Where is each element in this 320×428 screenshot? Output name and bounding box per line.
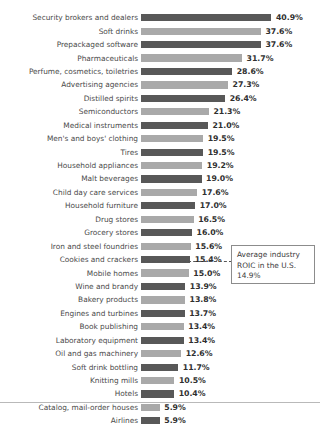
category-label: Knitting mills xyxy=(0,376,138,385)
bar-value-label: 17.0% xyxy=(200,201,227,210)
bar-value-label: 19.0% xyxy=(206,174,233,183)
bar-zone: 40.9% xyxy=(138,11,320,24)
bar-value-label: 11.7% xyxy=(183,363,210,372)
bar xyxy=(141,337,184,344)
category-label: Soft drink bottling xyxy=(0,363,138,372)
bar xyxy=(141,122,208,129)
bar-value-label: 13.7% xyxy=(189,309,216,318)
bar-value-label: 5.9% xyxy=(164,416,185,425)
bar-zone: 16.0% xyxy=(138,226,320,239)
category-label: Drug stores xyxy=(0,215,138,224)
bottom-divider xyxy=(0,402,320,403)
chart-row: Drug stores16.5% xyxy=(0,213,320,226)
bar-zone: 19.0% xyxy=(138,172,320,185)
category-label: Oil and gas machinery xyxy=(0,349,138,358)
bar-zone: 19.2% xyxy=(138,159,320,172)
category-label: Soft drinks xyxy=(0,27,138,36)
bar-zone: 10.5% xyxy=(138,374,320,387)
bar xyxy=(141,202,195,209)
bar-zone: 13.4% xyxy=(138,320,320,333)
chart-row: Malt beverages19.0% xyxy=(0,172,320,185)
bar-value-label: 13.8% xyxy=(190,295,217,304)
chart-row: Pharmaceuticals31.7% xyxy=(0,51,320,64)
bar-value-label: 16.0% xyxy=(197,228,224,237)
bar-value-label: 21.3% xyxy=(213,107,240,116)
chart-row: Airlines5.9% xyxy=(0,414,320,427)
bar-value-label: 27.3% xyxy=(233,80,260,89)
chart-rows: Security brokers and dealers40.9%Soft dr… xyxy=(0,11,320,428)
bar xyxy=(141,310,185,317)
chart-row: Child day care services17.6% xyxy=(0,186,320,199)
bar-value-label: 10.4% xyxy=(179,389,206,398)
category-label: Mobile homes xyxy=(0,269,138,278)
bar-zone: 26.4% xyxy=(138,92,320,105)
bar xyxy=(141,81,228,88)
category-label: Tires xyxy=(0,148,138,157)
chart-row: Oil and gas machinery12.6% xyxy=(0,347,320,360)
bar-zone: 21.3% xyxy=(138,105,320,118)
bar-zone: 27.3% xyxy=(138,78,320,91)
bar xyxy=(141,175,202,182)
bar-value-label: 5.9% xyxy=(164,403,185,412)
bar xyxy=(141,68,232,75)
chart-row: Semiconductors21.3% xyxy=(0,105,320,118)
bar-value-label: 37.6% xyxy=(265,27,292,36)
chart-row: Perfume, cosmetics, toiletries28.6% xyxy=(0,65,320,78)
category-label: Catalog, mail-order houses xyxy=(0,403,138,412)
bar-value-label: 40.9% xyxy=(276,13,303,22)
bar xyxy=(141,417,160,424)
bar-value-label: 16.5% xyxy=(198,215,225,224)
chart-row: Grocery stores16.0% xyxy=(0,226,320,239)
category-label: Semiconductors xyxy=(0,107,138,116)
bar-value-label: 13.4% xyxy=(188,336,215,345)
bar xyxy=(141,269,189,276)
bar xyxy=(141,28,261,35)
category-label: Book publishing xyxy=(0,322,138,331)
bar xyxy=(141,323,184,330)
chart-row: Household furniture17.0% xyxy=(0,199,320,212)
category-label: Security brokers and dealers xyxy=(0,13,138,22)
bar-value-label: 13.9% xyxy=(190,282,217,291)
bar-value-label: 26.4% xyxy=(230,94,257,103)
chart-row: Laboratory equipment13.4% xyxy=(0,334,320,347)
chart-row: Men's and boys' clothing19.5% xyxy=(0,132,320,145)
bar-value-label: 13.4% xyxy=(188,322,215,331)
bar-zone: 37.6% xyxy=(138,24,320,37)
category-label: Iron and steel foundries xyxy=(0,242,138,251)
bar xyxy=(141,108,209,115)
bar-zone: 37.6% xyxy=(138,38,320,51)
bar-value-label: 19.2% xyxy=(207,161,234,170)
chart-row: Knitting mills10.5% xyxy=(0,374,320,387)
chart-row: Medical instruments21.0% xyxy=(0,119,320,132)
chart-row: Soft drink bottling11.7% xyxy=(0,360,320,373)
category-label: Laboratory equipment xyxy=(0,336,138,345)
chart-row: Engines and turbines13.7% xyxy=(0,307,320,320)
bar-zone: 28.6% xyxy=(138,65,320,78)
bar-zone: 16.5% xyxy=(138,213,320,226)
bar-zone: 10.4% xyxy=(138,387,320,400)
bar xyxy=(141,229,192,236)
bar xyxy=(141,296,185,303)
category-label: Pharmaceuticals xyxy=(0,54,138,63)
callout-line-1: Average industry xyxy=(237,250,310,261)
bar-zone: 17.0% xyxy=(138,199,320,212)
category-label: Hotels xyxy=(0,389,138,398)
bar-zone: 11.7% xyxy=(138,360,320,373)
bar xyxy=(141,377,174,384)
chart-row: Security brokers and dealers40.9% xyxy=(0,11,320,24)
bar-value-label: 19.5% xyxy=(208,134,235,143)
bar-value-label: 21.0% xyxy=(212,121,239,130)
category-label: Cookies and crackers xyxy=(0,255,138,264)
bar xyxy=(141,350,181,357)
bar xyxy=(141,41,261,48)
bar xyxy=(141,95,225,102)
bar-zone: 13.8% xyxy=(138,293,320,306)
bar xyxy=(141,14,271,21)
category-label: Distilled spirits xyxy=(0,94,138,103)
bar-zone: 13.7% xyxy=(138,307,320,320)
bar-value-label: 31.7% xyxy=(247,54,274,63)
category-label: Engines and turbines xyxy=(0,309,138,318)
bar-zone: 17.6% xyxy=(138,186,320,199)
category-label: Wine and brandy xyxy=(0,282,138,291)
